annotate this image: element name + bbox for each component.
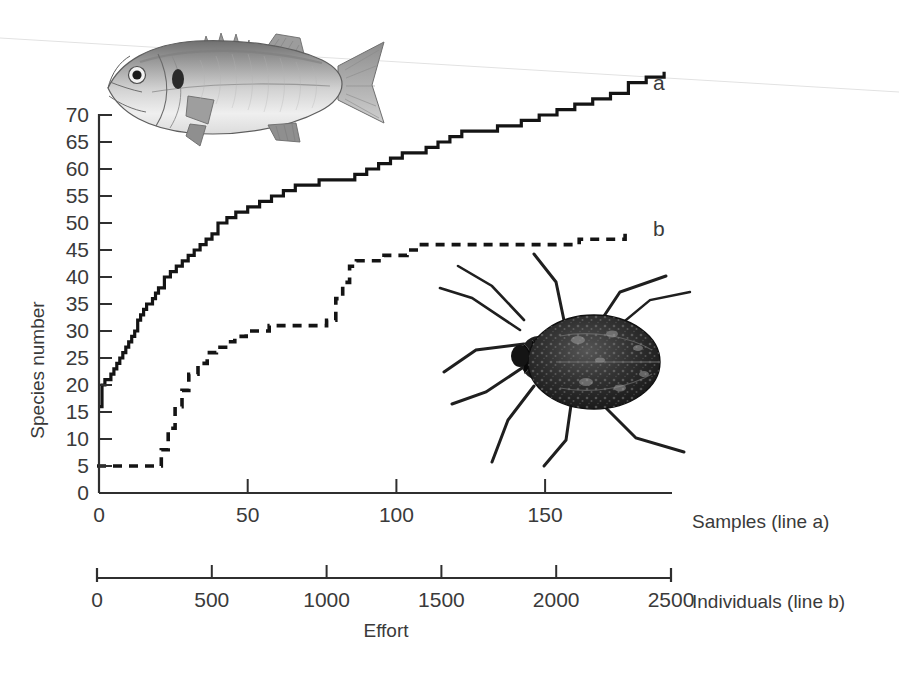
y-axis-ticks [99,115,112,493]
y-tick-label-55: 55 [66,184,89,207]
y-tick-label-60: 60 [66,157,89,180]
chart-canvas: 0510152025303540455055606570 050100150 0… [0,0,899,673]
x-individuals-tick-label-2000: 2000 [533,588,580,611]
x-individuals-tick-label-1000: 1000 [303,588,350,611]
x-individuals-tick-label-2500: 2500 [648,588,695,611]
x-samples-tick-label-50: 50 [236,503,259,526]
x-samples-tick-label-150: 150 [528,503,563,526]
y-axis-title: Species number [27,301,48,439]
y-tick-label-40: 40 [66,265,89,288]
y-tick-label-50: 50 [66,211,89,234]
y-axis-tick-labels: 0510152025303540455055606570 [66,103,89,504]
series-a-end-label: a [653,71,665,94]
y-tick-label-0: 0 [77,481,89,504]
x-samples-tick-label-0: 0 [93,503,105,526]
y-tick-label-5: 5 [77,454,89,477]
y-tick-label-65: 65 [66,130,89,153]
y-tick-label-35: 35 [66,292,89,315]
x-individuals-tick-label-0: 0 [91,588,103,611]
y-tick-label-25: 25 [66,346,89,369]
x-samples-tick-label-100: 100 [379,503,414,526]
fish-illustration [108,33,384,146]
water-bug-illustration [440,254,690,466]
y-tick-label-45: 45 [66,238,89,261]
x-axis-samples-tick-labels: 050100150 [93,503,562,526]
y-tick-label-70: 70 [66,103,89,126]
y-tick-label-10: 10 [66,427,89,450]
y-tick-label-15: 15 [66,400,89,423]
x-individuals-tick-label-500: 500 [194,588,229,611]
y-tick-label-30: 30 [66,319,89,342]
x-axis-samples-ticks [248,479,545,493]
species-accumulation-figure: 0510152025303540455055606570 050100150 0… [0,0,899,673]
x-axis-effort-title: Effort [363,620,409,641]
x-axis-individuals-tick-labels: 05001000150020002500 [91,588,694,611]
y-tick-label-20: 20 [66,373,89,396]
series-b-end-label: b [653,217,665,240]
x-axis-individuals-ticks [212,565,556,578]
x-axis-individuals-title: Individuals (line b) [692,591,845,612]
x-axis-samples-title: Samples (line a) [692,511,829,532]
x-individuals-tick-label-1500: 1500 [418,588,465,611]
x-axis-individuals-line [97,568,671,582]
